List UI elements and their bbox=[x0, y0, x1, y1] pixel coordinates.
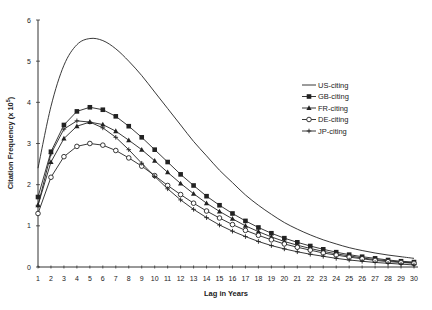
x-tick-label: 25 bbox=[345, 275, 353, 282]
x-tick-label: 9 bbox=[140, 275, 144, 282]
x-tick-label: 18 bbox=[255, 275, 263, 282]
x-tick-label: 26 bbox=[358, 275, 366, 282]
chart-legend: US-citingGB-citingFR-citingDE-citingJP-c… bbox=[302, 81, 349, 136]
chart-series bbox=[35, 38, 416, 267]
x-tick-label: 3 bbox=[62, 275, 66, 282]
x-axis-label: Lag in Years bbox=[204, 289, 248, 298]
series-gb-citing bbox=[36, 105, 417, 264]
svg-text:US-citing: US-citing bbox=[318, 81, 348, 90]
legend-item-fr-citing: FR-citing bbox=[302, 104, 348, 113]
svg-text:GB-citing: GB-citing bbox=[318, 92, 349, 101]
chart-axes: 0123456123456789101112131415161718192021… bbox=[27, 17, 418, 283]
x-tick-label: 21 bbox=[293, 275, 301, 282]
x-tick-label: 22 bbox=[306, 275, 314, 282]
legend-item-de-citing: DE-citing bbox=[302, 115, 348, 124]
x-tick-label: 30 bbox=[410, 275, 418, 282]
y-tick-label: 3 bbox=[27, 140, 31, 147]
svg-text:FR-citing: FR-citing bbox=[318, 104, 348, 113]
x-tick-label: 14 bbox=[203, 275, 211, 282]
x-tick-label: 24 bbox=[332, 275, 340, 282]
y-axis-label: Citation Frequency (x 105) bbox=[5, 96, 15, 189]
x-tick-label: 4 bbox=[75, 275, 79, 282]
x-tick-label: 13 bbox=[190, 275, 198, 282]
x-tick-label: 2 bbox=[49, 275, 53, 282]
y-tick-label: 4 bbox=[27, 99, 31, 106]
y-tick-label: 2 bbox=[27, 181, 31, 188]
x-tick-label: 1 bbox=[36, 275, 40, 282]
line-chart: 0123456123456789101112131415161718192021… bbox=[0, 0, 432, 310]
x-tick-label: 17 bbox=[242, 275, 250, 282]
svg-text:JP-citing: JP-citing bbox=[318, 127, 347, 136]
y-tick-label: 5 bbox=[27, 58, 31, 65]
x-tick-label: 15 bbox=[216, 275, 224, 282]
x-tick-label: 10 bbox=[151, 275, 159, 282]
x-tick-label: 20 bbox=[280, 275, 288, 282]
x-tick-label: 11 bbox=[164, 275, 171, 282]
legend-item-us-citing: US-citing bbox=[302, 81, 348, 90]
x-tick-label: 28 bbox=[384, 275, 392, 282]
x-tick-label: 29 bbox=[397, 275, 405, 282]
x-tick-label: 12 bbox=[177, 275, 185, 282]
series-fr-citing bbox=[35, 119, 416, 265]
legend-item-jp-citing: JP-citing bbox=[302, 127, 347, 136]
x-tick-label: 16 bbox=[229, 275, 237, 282]
series-us-citing bbox=[38, 38, 414, 258]
x-tick-label: 23 bbox=[319, 275, 327, 282]
series-jp-citing bbox=[36, 119, 417, 268]
x-tick-label: 6 bbox=[101, 275, 105, 282]
series-de-citing bbox=[36, 141, 417, 265]
x-tick-label: 5 bbox=[88, 275, 92, 282]
y-tick-label: 1 bbox=[27, 222, 31, 229]
y-tick-label: 6 bbox=[27, 17, 31, 24]
legend-item-gb-citing: GB-citing bbox=[302, 92, 349, 101]
svg-text:DE-citing: DE-citing bbox=[318, 115, 348, 124]
x-tick-label: 8 bbox=[127, 275, 131, 282]
x-tick-label: 27 bbox=[371, 275, 379, 282]
x-tick-label: 19 bbox=[267, 275, 275, 282]
y-tick-label: 0 bbox=[27, 264, 31, 271]
x-tick-label: 7 bbox=[114, 275, 118, 282]
